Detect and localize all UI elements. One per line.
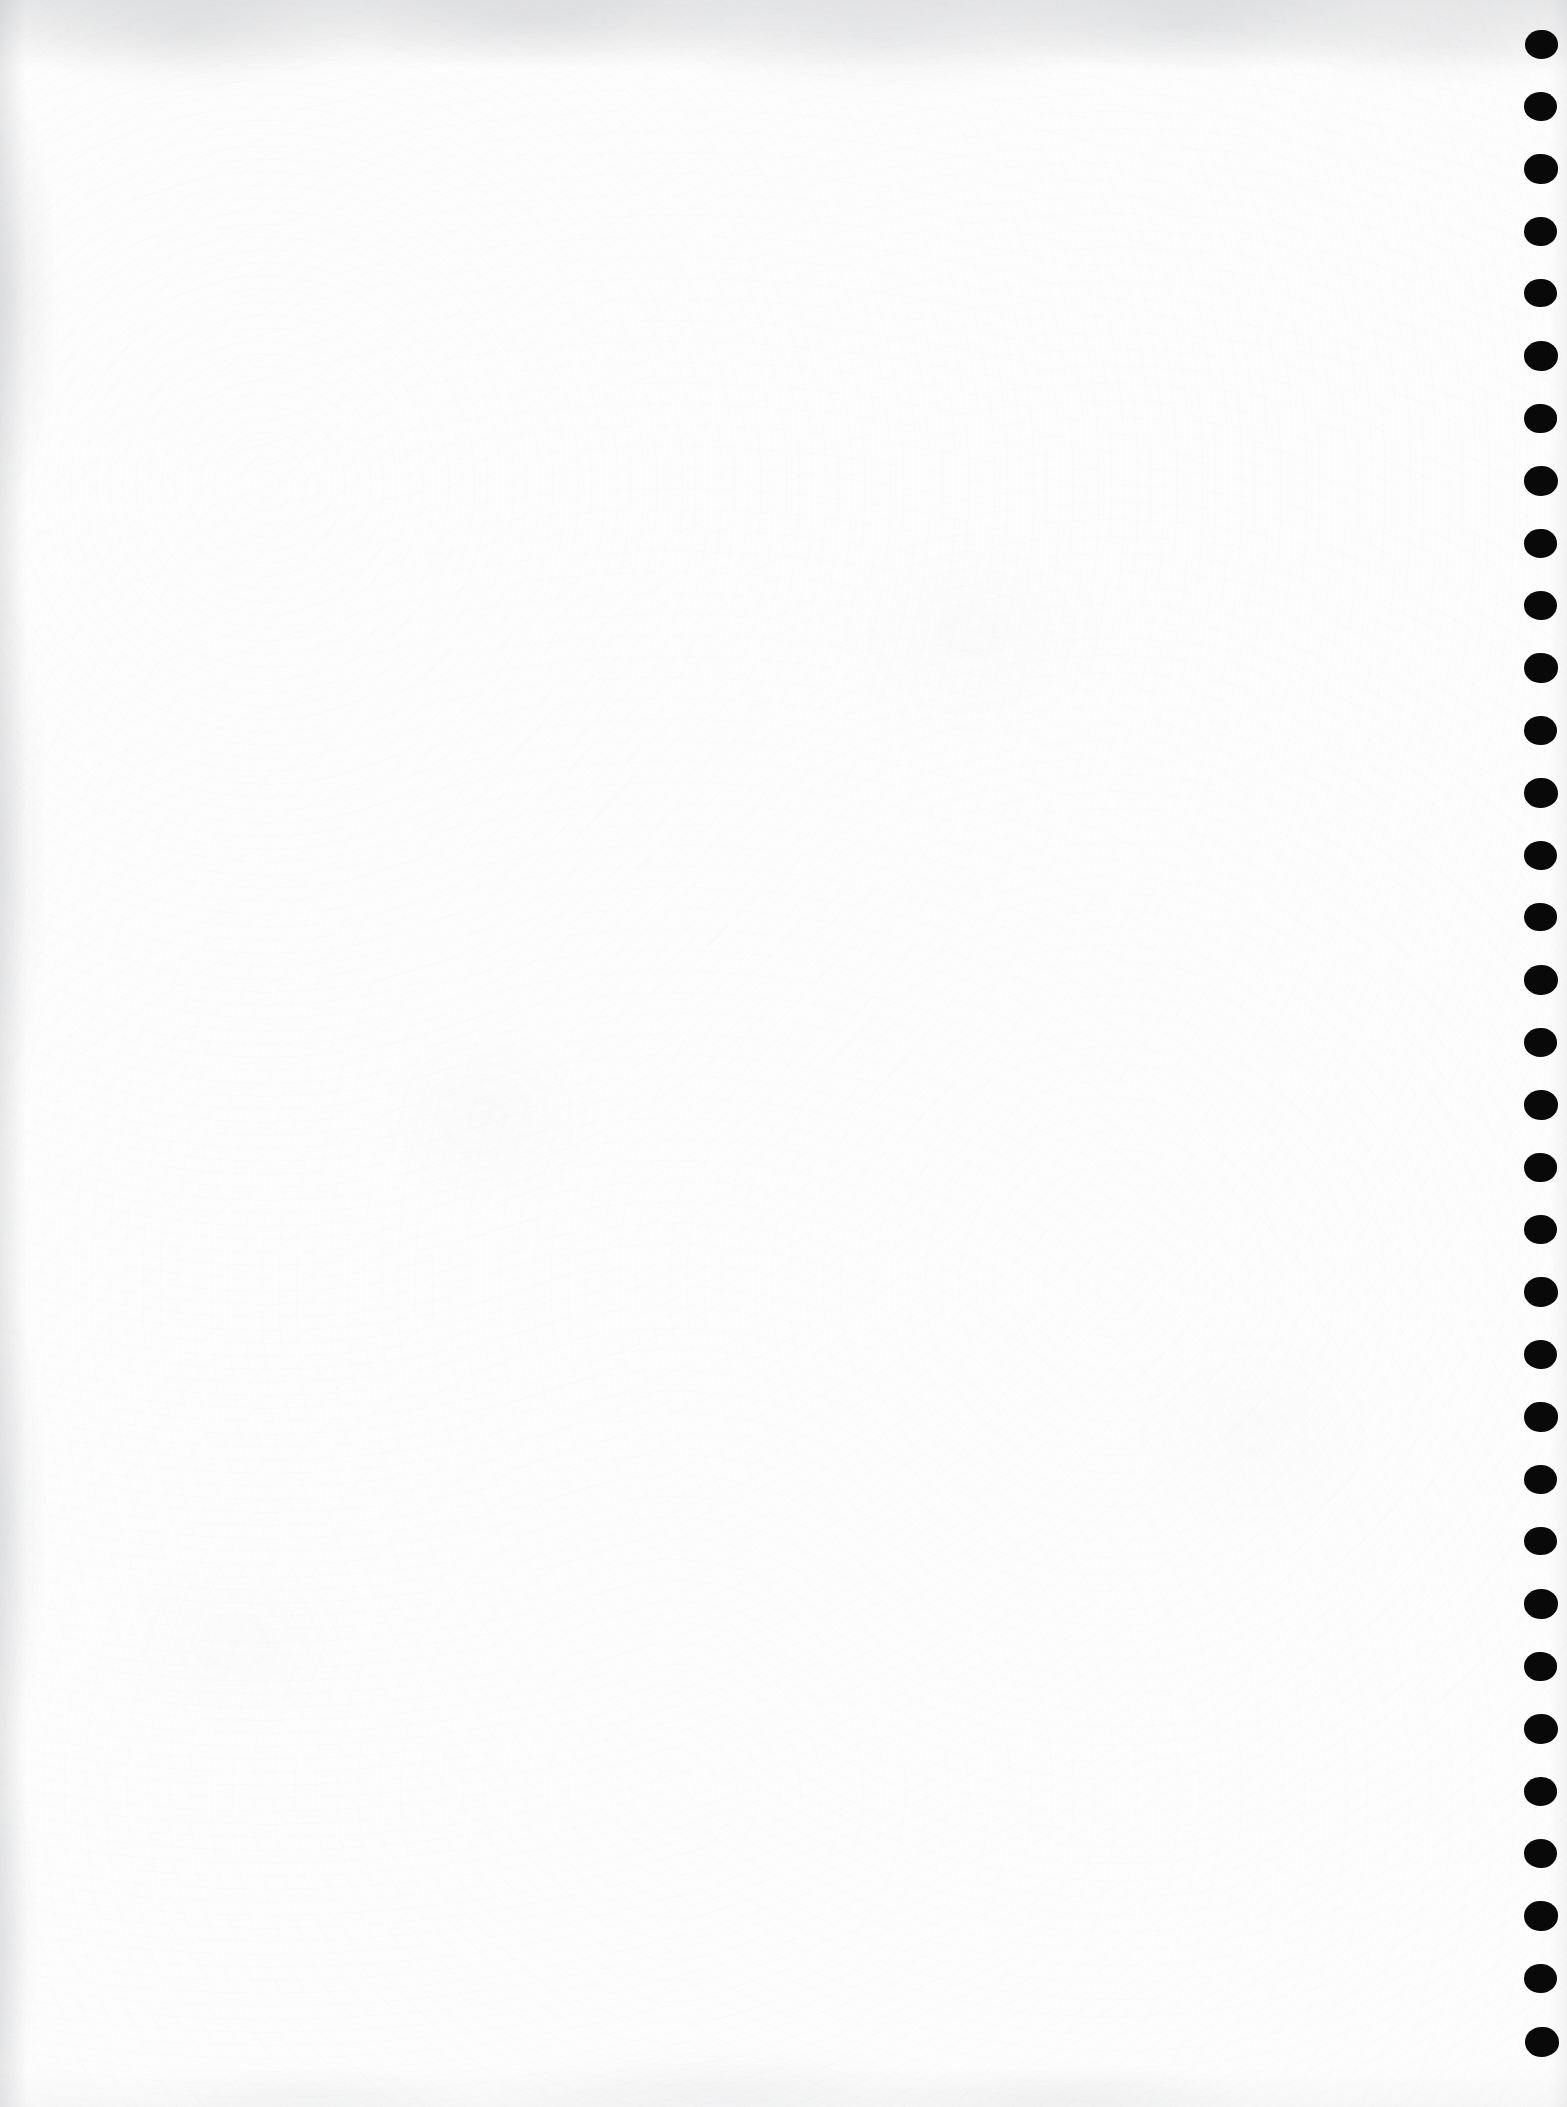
scanned-page bbox=[0, 0, 1567, 2107]
page-content-area bbox=[0, 0, 1480, 2107]
